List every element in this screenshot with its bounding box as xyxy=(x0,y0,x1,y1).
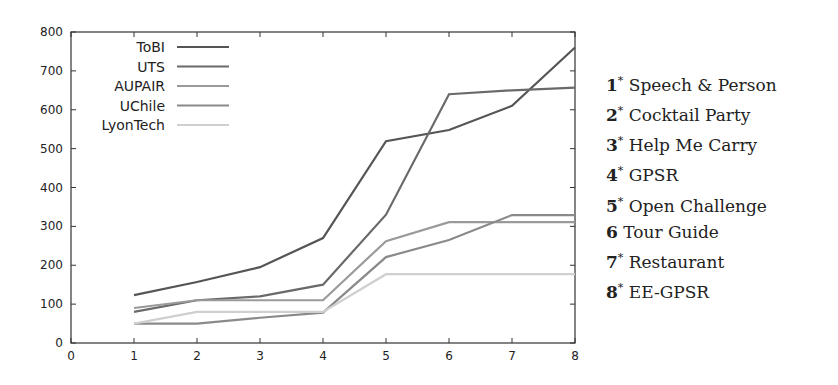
series-line-tobi xyxy=(134,48,575,296)
x-tick-label: 2 xyxy=(193,349,201,363)
task-number: 6 xyxy=(606,222,618,242)
x-tick-label: 4 xyxy=(319,349,327,363)
task-legend-item: 1* Speech & Person xyxy=(606,68,777,98)
y-tick-label: 700 xyxy=(40,64,63,78)
task-legend-item: 6 Tour Guide xyxy=(606,219,777,246)
x-tick-label: 3 xyxy=(256,349,264,363)
y-tick-label: 600 xyxy=(40,103,63,117)
task-legend-item: 3* Help Me Carry xyxy=(606,128,777,158)
x-tick-label: 6 xyxy=(445,349,453,363)
task-number: 3 xyxy=(606,135,618,155)
figure: 0100200300400500600700800012345678ToBIUT… xyxy=(0,0,838,385)
line-chart: 0100200300400500600700800012345678ToBIUT… xyxy=(0,0,600,385)
task-legend: 1* Speech & Person2* Cocktail Party3* He… xyxy=(606,68,777,306)
task-number: 1 xyxy=(606,75,618,95)
task-number: 7 xyxy=(606,252,618,272)
task-label: Cocktail Party xyxy=(623,105,750,125)
task-legend-item: 8* EE-GPSR xyxy=(606,275,777,305)
legend-label: UChile xyxy=(120,98,165,114)
x-tick-label: 8 xyxy=(571,349,579,363)
y-tick-label: 0 xyxy=(55,336,63,350)
task-number: 8 xyxy=(606,282,618,302)
task-legend-item: 5* Open Challenge xyxy=(606,189,777,219)
x-tick-label: 1 xyxy=(130,349,138,363)
task-number: 5 xyxy=(606,195,618,215)
x-tick-label: 5 xyxy=(382,349,390,363)
y-tick-label: 300 xyxy=(40,219,63,233)
task-number: 2 xyxy=(606,105,618,125)
task-legend-item: 2* Cocktail Party xyxy=(606,98,777,128)
task-label: GPSR xyxy=(623,165,678,185)
x-tick-label: 7 xyxy=(508,349,516,363)
task-label: Open Challenge xyxy=(623,195,767,215)
y-tick-label: 200 xyxy=(40,258,63,272)
task-label: Speech & Person xyxy=(623,75,776,95)
series-line-aupair xyxy=(134,222,575,308)
series-line-uts xyxy=(134,88,575,312)
x-tick-label: 0 xyxy=(67,349,75,363)
legend-label: LyonTech xyxy=(101,117,165,133)
y-tick-label: 100 xyxy=(40,297,63,311)
task-number: 4 xyxy=(606,165,618,185)
task-legend-item: 7* Restaurant xyxy=(606,245,777,275)
task-label: Tour Guide xyxy=(618,222,719,242)
task-label: EE-GPSR xyxy=(623,282,709,302)
legend-label: ToBI xyxy=(136,39,165,55)
legend-label: UTS xyxy=(137,59,165,75)
y-tick-label: 500 xyxy=(40,142,63,156)
y-tick-label: 400 xyxy=(40,181,63,195)
task-legend-item: 4* GPSR xyxy=(606,158,777,188)
task-label: Help Me Carry xyxy=(623,135,757,155)
y-tick-label: 800 xyxy=(40,25,63,39)
legend-label: AUPAIR xyxy=(114,78,165,94)
task-label: Restaurant xyxy=(623,252,724,272)
